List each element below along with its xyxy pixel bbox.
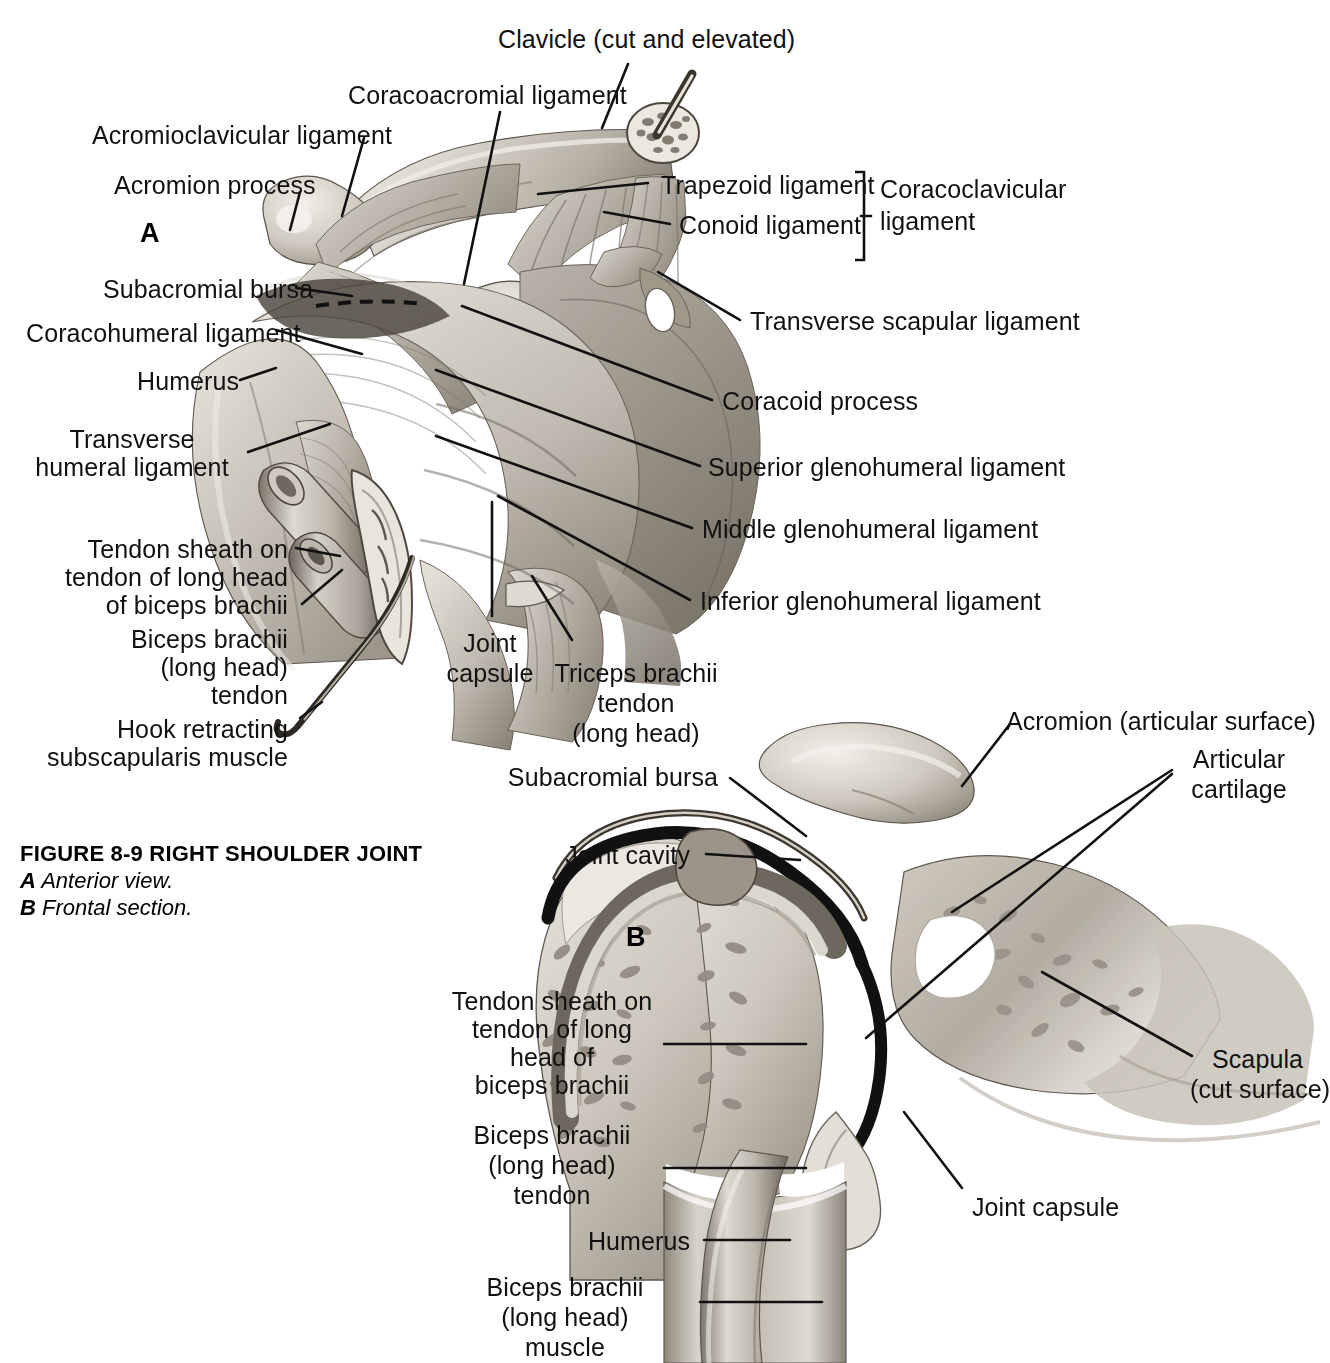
label-biceps-tendon-a-line3: tendon [36, 680, 288, 710]
label-hook-line1: Hook retracting [36, 714, 288, 744]
label-inferior-glenohumeral-ligament: Inferior glenohumeral ligament [700, 586, 1041, 616]
label-triceps-line1: Triceps brachii [540, 658, 732, 688]
leader-hook [300, 702, 322, 718]
label-conoid-ligament: Conoid ligament [679, 210, 861, 240]
label-joint-capsule-a-line2: capsule [428, 658, 552, 688]
label-coracoclavicular-ligament-line2: ligament [880, 206, 975, 236]
label-transverse-humeral-ligament-line1: Transverse [16, 424, 248, 454]
label-coracoacromial-ligament: Coracoacromial ligament [348, 80, 627, 110]
label-triceps-line3: (long head) [540, 718, 732, 748]
caption-line-a: A Anterior view. [20, 867, 440, 894]
label-subacromial-bursa-a: Subacromial bursa [103, 274, 313, 304]
figure-caption: FIGURE 8-9 RIGHT SHOULDER JOINT A Anteri… [20, 840, 440, 921]
caption-title: FIGURE 8-9 RIGHT SHOULDER JOINT [20, 840, 440, 867]
label-biceps-muscle-line2: (long head) [440, 1302, 690, 1332]
label-scapula-line2: (cut surface) [1190, 1074, 1330, 1104]
caption-a-letter: A [20, 868, 36, 893]
label-acromioclavicular-ligament: Acromioclavicular ligament [92, 120, 392, 150]
label-biceps-tendon-a-line2: (long head) [36, 652, 288, 682]
label-tendon-sheath-a-line3: of biceps brachii [36, 590, 288, 620]
label-biceps-tendon-b-line1: Biceps brachii [440, 1120, 664, 1150]
label-acromion-b: Acromion (articular surface) [1006, 706, 1316, 736]
label-humerus-a: Humerus [137, 366, 239, 396]
label-subacromial-bursa-b: Subacromial bursa [450, 762, 718, 792]
label-articular-cartilage-line2: cartilage [1158, 774, 1320, 804]
caption-b-letter: B [20, 895, 36, 920]
label-biceps-tendon-b-line2: (long head) [440, 1150, 664, 1180]
label-coracohumeral-ligament: Coracohumeral ligament [26, 318, 301, 348]
leader-joint-capsule-b [904, 1112, 962, 1188]
label-clavicle: Clavicle (cut and elevated) [498, 24, 795, 54]
label-articular-cartilage-line1: Articular [1158, 744, 1320, 774]
label-tendon-sheath-b-line4: biceps brachii [440, 1070, 664, 1100]
label-tendon-sheath-a-line2: tendon of long head [36, 562, 288, 592]
label-tendon-sheath-b-line2: tendon of long [440, 1014, 664, 1044]
label-triceps-line2: tendon [540, 688, 732, 718]
label-tendon-sheath-b-line3: head of [440, 1042, 664, 1072]
label-coracoclavicular-ligament-line1: Coracoclavicular [880, 174, 1066, 204]
label-scapula-line1: Scapula [1212, 1044, 1303, 1074]
label-biceps-tendon-b-line3: tendon [440, 1180, 664, 1210]
label-transverse-humeral-ligament-line2: humeral ligament [16, 452, 248, 482]
label-coracoid-process: Coracoid process [722, 386, 918, 416]
caption-line-b: B Frontal section. [20, 894, 440, 921]
label-humerus-b: Humerus [440, 1226, 690, 1256]
label-biceps-muscle-line3: muscle [440, 1332, 690, 1362]
label-joint-capsule-b: Joint capsule [972, 1192, 1119, 1222]
leader-acromion-b [962, 724, 1010, 786]
caption-b-text: Frontal section. [42, 895, 192, 920]
caption-a-text: Anterior view. [41, 868, 173, 893]
label-tendon-sheath-b-line1: Tendon sheath on [440, 986, 664, 1016]
label-joint-cavity: Joint cavity [450, 840, 690, 870]
label-transverse-scapular-ligament: Transverse scapular ligament [750, 306, 1080, 336]
label-biceps-tendon-a-line1: Biceps brachii [36, 624, 288, 654]
label-tendon-sheath-a-line1: Tendon sheath on [36, 534, 288, 564]
label-superior-glenohumeral-ligament: Superior glenohumeral ligament [708, 452, 1065, 482]
label-acromion-process: Acromion process [114, 170, 316, 200]
panel-b-letter: B [626, 922, 646, 953]
label-hook-line2: subscapularis muscle [16, 742, 288, 772]
label-trapezoid-ligament: Trapezoid ligament [661, 170, 874, 200]
panel-a-letter: A [140, 218, 160, 249]
label-middle-glenohumeral-ligament: Middle glenohumeral ligament [702, 514, 1038, 544]
label-biceps-muscle-line1: Biceps brachii [440, 1272, 690, 1302]
label-joint-capsule-a-line1: Joint [428, 628, 552, 658]
